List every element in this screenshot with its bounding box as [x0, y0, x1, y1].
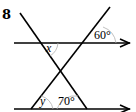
angle-x-label: x	[45, 41, 52, 55]
question-number: 8	[2, 7, 11, 22]
angle-60-label: 60°	[94, 28, 111, 42]
angle-y-label: y	[39, 94, 46, 108]
angle-70-label: 70°	[58, 94, 75, 108]
descending-transversal	[20, 13, 87, 109]
geometry-diagram: 8 x 60° y 70°	[0, 0, 136, 112]
